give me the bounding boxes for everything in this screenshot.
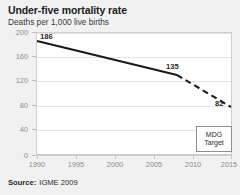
x-tick-label-2000: 2000 xyxy=(100,160,130,169)
y-tick-label-160: 160 xyxy=(2,52,28,61)
data-label-82: 82 xyxy=(215,99,223,108)
chart-subtitle: Deaths per 1,000 live births xyxy=(8,17,109,27)
page-title: Under-five mortality rate xyxy=(8,4,127,16)
mdg-target-line-2: Target xyxy=(204,139,223,147)
source-note: Source:IGME 2009 xyxy=(8,178,78,187)
mdg-target-line-1: MDG xyxy=(206,131,222,139)
x-tick-label-2010: 2010 xyxy=(178,160,208,169)
mdg-target-annotation: MDG Target xyxy=(196,126,232,152)
x-tick-mark-2005 xyxy=(154,156,155,159)
y-tick-label-0: 0 xyxy=(2,151,28,160)
x-tick-label-2015: 2015 xyxy=(214,160,240,169)
x-tick-mark-2010 xyxy=(193,156,194,159)
series-observed-line xyxy=(37,41,177,75)
source-value: IGME 2009 xyxy=(39,178,77,187)
x-tick-label-2005: 2005 xyxy=(139,160,169,169)
source-label: Source: xyxy=(8,178,36,187)
y-tick-label-40: 40 xyxy=(2,125,28,134)
data-label-135: 135 xyxy=(166,62,179,71)
y-tick-label-120: 120 xyxy=(2,76,28,85)
x-tick-mark-2000 xyxy=(115,156,116,159)
x-tick-mark-1995 xyxy=(76,156,77,159)
y-tick-label-80: 80 xyxy=(2,101,28,110)
x-tick-label-1990: 1990 xyxy=(22,160,52,169)
x-tick-label-1995: 1995 xyxy=(61,160,91,169)
data-label-186: 186 xyxy=(40,32,53,41)
x-tick-mark-1990 xyxy=(37,156,38,159)
x-tick-mark-2015 xyxy=(231,156,232,159)
chart-figure: Under-five mortality rate Deaths per 1,0… xyxy=(0,0,240,195)
y-tick-label-200: 200 xyxy=(2,28,28,37)
